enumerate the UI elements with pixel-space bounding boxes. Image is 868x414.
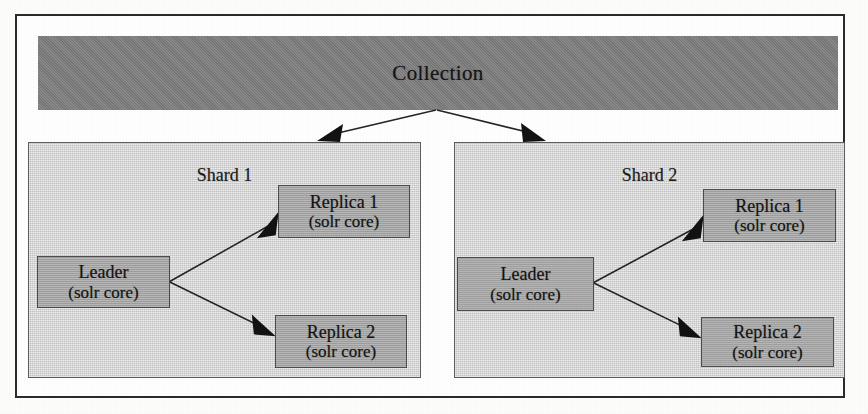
shard-2-replica-1-detail: (solr core) bbox=[734, 216, 804, 235]
shard-2-leader-node[interactable]: Leader (solr core) bbox=[457, 257, 594, 311]
shard-1-replica-2-detail: (solr core) bbox=[306, 342, 376, 361]
shard-1-replica-1-node[interactable]: Replica 1 (solr core) bbox=[278, 185, 410, 238]
shard-1-leader-detail: (solr core) bbox=[68, 283, 138, 302]
shard-1-replica-1-name: Replica 1 bbox=[310, 192, 378, 212]
shard-2-replica-1-name: Replica 1 bbox=[735, 196, 803, 216]
shard-title-1: Shard 1 bbox=[29, 165, 420, 186]
edge-leader-to-replica-2 bbox=[169, 282, 275, 337]
shard-2-leader-name: Leader bbox=[501, 264, 551, 284]
shard-container-2[interactable]: Shard 2 Leader (solr core) Replica 1 (so… bbox=[454, 142, 845, 378]
shard-1-leader-name: Leader bbox=[79, 262, 129, 282]
shard-2-replica-2-detail: (solr core) bbox=[732, 343, 802, 362]
shard-2-replica-2-node[interactable]: Replica 2 (solr core) bbox=[701, 317, 834, 367]
shard-1-leader-node[interactable]: Leader (solr core) bbox=[37, 256, 170, 308]
edge-leader-to-replica-1 bbox=[593, 214, 703, 282]
diagram-canvas: Collection Shard 1 Leader (solr cor bbox=[0, 0, 868, 414]
shard-1-replica-2-name: Replica 2 bbox=[307, 322, 375, 342]
collection-label: Collection bbox=[392, 61, 484, 86]
shard-title-2: Shard 2 bbox=[455, 165, 844, 186]
shard-container-1[interactable]: Shard 1 Leader (solr core) Replica 1 (so… bbox=[28, 142, 421, 378]
shard-2-replica-1-node[interactable]: Replica 1 (solr core) bbox=[703, 189, 836, 242]
collection-node[interactable]: Collection bbox=[38, 36, 838, 110]
edge-leader-to-replica-1 bbox=[169, 211, 278, 281]
shard-1-replica-1-detail: (solr core) bbox=[309, 212, 379, 231]
shard-2-replica-2-name: Replica 2 bbox=[733, 322, 801, 342]
shard-1-replica-2-node[interactable]: Replica 2 (solr core) bbox=[275, 315, 407, 368]
shard-2-leader-detail: (solr core) bbox=[490, 285, 560, 304]
edge-leader-to-replica-2 bbox=[593, 283, 701, 339]
